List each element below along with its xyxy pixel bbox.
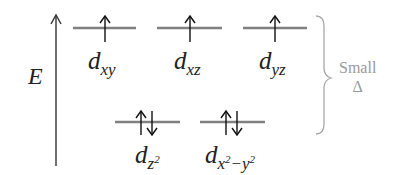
small-delta-annotation: Small Δ <box>339 58 376 96</box>
energy-axis <box>51 15 61 166</box>
orbital-label-dx2-y2: dx2−y2 <box>205 142 255 172</box>
orbital-label-dxz: dxz <box>174 48 201 78</box>
paired-arrows-lower <box>136 111 242 135</box>
brace <box>316 16 331 134</box>
orbital-label-dz2: dz2 <box>135 142 160 172</box>
orbital-label-dxy: dxy <box>88 48 116 78</box>
annotation-line-1: Small <box>339 58 376 77</box>
energy-axis-label: E <box>28 63 43 90</box>
orbital-label-dyz: dyz <box>259 48 286 78</box>
annotation-line-2: Δ <box>339 77 376 96</box>
crystal-field-diagram: E dxy dxz dyz dz2 dx2−y2 Small Δ <box>0 0 405 175</box>
